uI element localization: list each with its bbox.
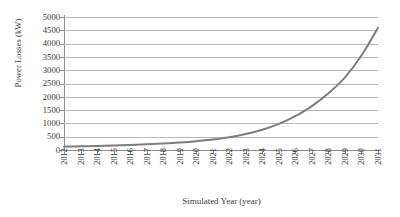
x-tick-label: 2018 (158, 148, 169, 192)
x-tick-label: 2025 (274, 148, 285, 192)
x-tick-label: 2021 (208, 148, 219, 192)
x-tick-label: 2015 (109, 148, 120, 192)
y-tick-label: 3000 (2, 66, 60, 75)
y-tick-label: 2500 (2, 79, 60, 88)
x-tick-label: 2019 (175, 148, 186, 192)
x-tick-label: 2026 (290, 148, 301, 192)
chart-figure: Power Losses (kW) 0500100015002000250030… (0, 0, 400, 217)
y-tick-label: 2000 (2, 93, 60, 102)
x-tick-label: 2030 (356, 148, 367, 192)
x-tick-label: 2013 (76, 148, 87, 192)
x-axis-title: Simulated Year (year) (64, 196, 379, 206)
y-tick-label: 3500 (2, 53, 60, 62)
x-tick-label: 2012 (59, 148, 70, 192)
x-tick-label: 2016 (125, 148, 136, 192)
x-tick-label: 2014 (92, 148, 103, 192)
y-tick-label: 4500 (2, 26, 60, 35)
y-tick-label: 5000 (2, 13, 60, 22)
x-tick-label: 2024 (257, 148, 268, 192)
x-tick-label: 2022 (224, 148, 235, 192)
plot-area (64, 17, 378, 150)
y-tick-label: 1000 (2, 119, 60, 128)
x-tick-label: 2017 (142, 148, 153, 192)
power-losses-line (64, 28, 378, 147)
x-tick-label: 2020 (191, 148, 202, 192)
x-tick-label: 2027 (307, 148, 318, 192)
data-series-line (64, 17, 378, 150)
x-tick-label: 2023 (241, 148, 252, 192)
y-tick-label: 500 (2, 132, 60, 141)
y-tick-label: 1500 (2, 106, 60, 115)
x-tick-label: 2031 (373, 148, 384, 192)
x-tick-label: 2028 (323, 148, 334, 192)
y-tick-label: 4000 (2, 39, 60, 48)
x-tick-label: 2029 (340, 148, 351, 192)
